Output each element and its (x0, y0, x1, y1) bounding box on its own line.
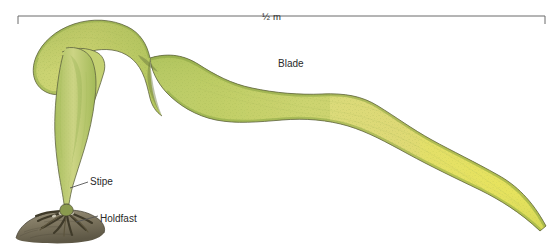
holdfast-shape (16, 204, 105, 243)
blade-shape (140, 45, 560, 240)
kelp-illustration-figure: ½ m Blade Stipe Holdfast (0, 0, 560, 246)
kelp-artwork (0, 0, 560, 246)
